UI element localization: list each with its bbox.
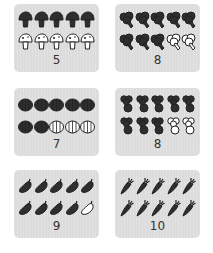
count-number: 8 bbox=[115, 137, 200, 151]
eggplant-icon bbox=[65, 199, 80, 217]
carrot-icon bbox=[166, 199, 181, 217]
eggplant-icon bbox=[80, 199, 95, 217]
icon-row bbox=[119, 177, 196, 195]
pumpkin-icon bbox=[49, 117, 64, 135]
eggplant-icon bbox=[80, 177, 95, 195]
eggplant-icon bbox=[49, 199, 64, 217]
mushroom-icon bbox=[34, 11, 49, 29]
icon-row bbox=[119, 199, 196, 217]
count-number: 9 bbox=[14, 219, 99, 233]
pumpkin-icon bbox=[49, 95, 64, 113]
eggplant-icon bbox=[65, 177, 80, 195]
beet-icon bbox=[150, 117, 165, 135]
eggplant-icon bbox=[34, 199, 49, 217]
broccoli-icon bbox=[181, 33, 196, 51]
icon-row bbox=[18, 95, 95, 113]
icon-row bbox=[119, 33, 196, 51]
mushroom-icon bbox=[65, 33, 80, 51]
beet-icon bbox=[119, 117, 134, 135]
count-number: 5 bbox=[14, 53, 99, 67]
beet-icon bbox=[181, 117, 196, 135]
mushroom-icon bbox=[80, 33, 95, 51]
mushroom-icon bbox=[18, 33, 33, 51]
icon-row bbox=[119, 95, 196, 113]
pumpkin-icon bbox=[18, 117, 33, 135]
mushroom-icon bbox=[65, 11, 80, 29]
broccoli-icon bbox=[119, 33, 134, 51]
pumpkin-icon bbox=[34, 95, 49, 113]
eggplant-icon bbox=[34, 177, 49, 195]
icon-row bbox=[18, 117, 95, 135]
eggplant-icon bbox=[18, 199, 33, 217]
icon-row bbox=[119, 117, 196, 135]
count-number: 8 bbox=[115, 53, 200, 67]
carrot-icon bbox=[150, 199, 165, 217]
broccoli-icon bbox=[181, 11, 196, 29]
mushroom-icon bbox=[80, 11, 95, 29]
count-number: 7 bbox=[14, 137, 99, 151]
carrot-icon bbox=[181, 199, 196, 217]
carrot-icon bbox=[119, 199, 134, 217]
broccoli-icon bbox=[135, 33, 150, 51]
broccoli-icon bbox=[150, 11, 165, 29]
eggplant-icon bbox=[49, 177, 64, 195]
broccoli-icon bbox=[119, 11, 134, 29]
carrot-icon bbox=[150, 177, 165, 195]
icon-row bbox=[18, 199, 95, 217]
pumpkin-icon bbox=[80, 117, 95, 135]
carrot-icon bbox=[119, 177, 134, 195]
beet-icon bbox=[166, 117, 181, 135]
mushroom-icon bbox=[18, 11, 33, 29]
pumpkin-icon bbox=[18, 95, 33, 113]
count-card-beet: 8 bbox=[115, 88, 200, 156]
broccoli-icon bbox=[150, 33, 165, 51]
icon-row bbox=[18, 11, 95, 29]
mushroom-icon bbox=[49, 11, 64, 29]
icon-row bbox=[18, 177, 95, 195]
broccoli-icon bbox=[166, 11, 181, 29]
pumpkin-icon bbox=[34, 117, 49, 135]
carrot-icon bbox=[181, 177, 196, 195]
count-number: 10 bbox=[115, 219, 200, 233]
pumpkin-icon bbox=[65, 95, 80, 113]
beet-icon bbox=[150, 95, 165, 113]
carrot-icon bbox=[135, 177, 150, 195]
carrot-icon bbox=[135, 199, 150, 217]
count-card-carrot: 10 bbox=[115, 170, 200, 238]
broccoli-icon bbox=[166, 33, 181, 51]
carrot-icon bbox=[166, 177, 181, 195]
icon-row bbox=[18, 33, 95, 51]
beet-icon bbox=[119, 95, 134, 113]
beet-icon bbox=[181, 95, 196, 113]
pumpkin-icon bbox=[65, 117, 80, 135]
icon-row bbox=[119, 11, 196, 29]
beet-icon bbox=[135, 117, 150, 135]
count-card-mushroom: 5 bbox=[14, 4, 99, 72]
count-card-eggplant: 9 bbox=[14, 170, 99, 238]
mushroom-icon bbox=[34, 33, 49, 51]
broccoli-icon bbox=[135, 11, 150, 29]
beet-icon bbox=[135, 95, 150, 113]
eggplant-icon bbox=[18, 177, 33, 195]
mushroom-icon bbox=[49, 33, 64, 51]
pumpkin-icon bbox=[80, 95, 95, 113]
beet-icon bbox=[166, 95, 181, 113]
count-card-pumpkin: 7 bbox=[14, 88, 99, 156]
count-card-broccoli: 8 bbox=[115, 4, 200, 72]
